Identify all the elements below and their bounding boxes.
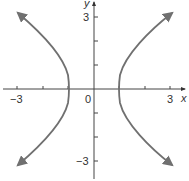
- x-tick-label-pos3: 3: [167, 93, 173, 105]
- hyperbola-chart: −3 0 3 x 3 −3 y: [0, 0, 189, 181]
- x-tick-label-neg3: −3: [10, 93, 23, 105]
- y-tick-label-neg3: −3: [76, 155, 89, 167]
- y-axis-label: y: [83, 0, 91, 9]
- x-axis-label: x: [180, 92, 187, 104]
- x-tick-label-zero: 0: [85, 93, 91, 105]
- y-tick-label-pos3: 3: [83, 11, 89, 23]
